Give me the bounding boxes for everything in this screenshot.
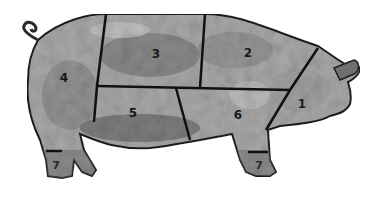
pig-cuts-diagram: 1 2 3 4 5 6 7 7 <box>0 0 383 199</box>
cut-label-7-front: 7 <box>255 160 263 172</box>
cut-label-2: 2 <box>244 47 252 59</box>
cut-label-1: 1 <box>298 98 306 110</box>
cut-label-7-rear: 7 <box>52 160 60 172</box>
cut-label-4: 4 <box>60 72 68 84</box>
cut-label-6: 6 <box>234 109 242 121</box>
cut-label-3: 3 <box>152 48 160 60</box>
tail <box>24 22 38 40</box>
cut-label-5: 5 <box>129 107 137 119</box>
